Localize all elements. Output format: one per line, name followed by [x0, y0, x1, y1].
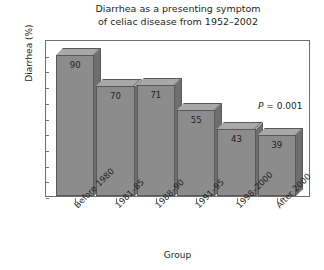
p-value-annotation: P = 0.001	[258, 101, 302, 111]
y-tick-mark	[46, 151, 49, 152]
y-tick-mark	[46, 57, 49, 58]
y-tick-mark	[46, 88, 49, 89]
y-tick-mark	[46, 104, 49, 105]
bar-front-face	[56, 55, 94, 196]
bar-value-label: 90	[56, 60, 94, 70]
bar-value-label: 39	[258, 140, 296, 150]
y-tick-mark	[46, 72, 49, 73]
chart-title: Diarrhea as a presenting symptom of celi…	[46, 3, 310, 28]
y-tick-mark	[46, 120, 49, 121]
y-tick-mark	[46, 182, 49, 183]
y-tick-mark	[46, 135, 49, 136]
chart-figure: Diarrhea as a presenting symptom of celi…	[0, 0, 324, 270]
bar-value-label: 70	[96, 91, 134, 101]
bar-value-label: 71	[137, 90, 175, 100]
y-tick-mark	[46, 198, 49, 199]
y-tick-mark	[46, 167, 49, 168]
bar-value-label: 55	[177, 115, 215, 125]
p-text: = 0.001	[263, 101, 302, 111]
y-axis-title: Diarrhea (%)	[24, 0, 34, 113]
bar: 71	[137, 85, 175, 196]
bar: 90	[56, 55, 94, 196]
x-axis-title: Group	[45, 250, 310, 260]
bar-front-face	[137, 85, 175, 196]
bar-value-label: 43	[217, 134, 255, 144]
